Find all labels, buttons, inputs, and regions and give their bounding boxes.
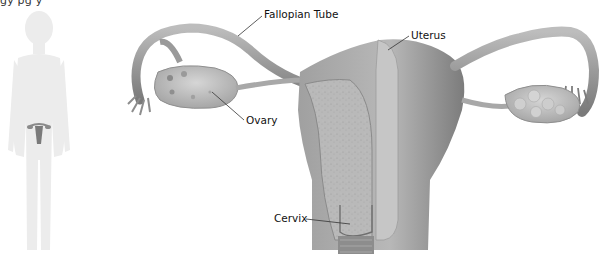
label-fallopian-tube: Fallopian Tube <box>264 8 338 20</box>
anatomy-diagram: gy pg y <box>0 0 607 257</box>
right-ovary <box>462 85 580 123</box>
label-cervix: Cervix <box>274 212 307 224</box>
label-ovary: Ovary <box>246 114 277 126</box>
body-silhouette <box>8 11 70 250</box>
fallopian-tube-leader <box>238 16 262 36</box>
label-uterus: Uterus <box>411 29 446 41</box>
uterus-body <box>298 39 464 254</box>
